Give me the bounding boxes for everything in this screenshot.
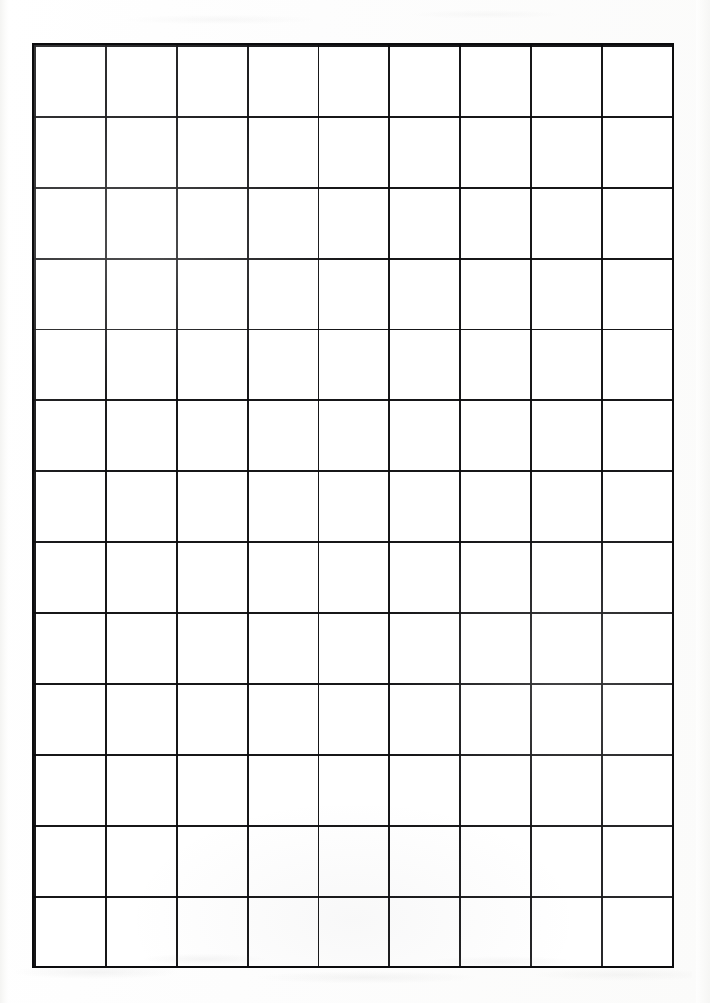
scan-edge-right xyxy=(696,0,710,1003)
graph-paper-page xyxy=(0,0,710,1003)
graph-grid xyxy=(34,45,672,966)
grid-major-lines xyxy=(34,45,672,966)
scan-edge-left xyxy=(0,0,9,1003)
